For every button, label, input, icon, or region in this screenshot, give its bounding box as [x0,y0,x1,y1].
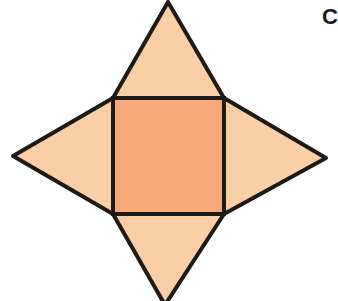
square-base-face [113,98,224,214]
right-triangle-face [224,98,326,214]
bottom-triangle-face [113,214,224,301]
top-triangle-face [113,2,224,98]
left-triangle-face [13,98,113,214]
option-label: C [322,4,338,30]
